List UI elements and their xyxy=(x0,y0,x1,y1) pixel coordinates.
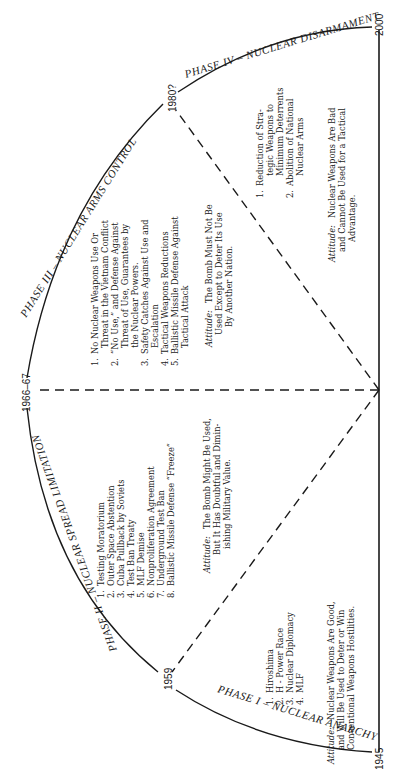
svg-text:4.: 4. xyxy=(295,697,305,705)
svg-text:Safety Catches Against Use and: Safety Catches Against Use and xyxy=(140,219,150,354)
svg-text:No Nuclear Weapons Use Or: No Nuclear Weapons Use Or xyxy=(90,233,100,354)
svg-text:3.: 3. xyxy=(140,358,150,366)
svg-text:MLF: MLF xyxy=(295,673,305,693)
svg-text:Nuclear Arms: Nuclear Arms xyxy=(295,118,305,176)
svg-text:Ballistic Missile Defense Agai: Ballistic Missile Defense Against xyxy=(170,216,180,354)
svg-text:tegic Weapons to: tegic Weapons to xyxy=(265,104,275,176)
svg-text:Reduction of Stra-: Reduction of Stra- xyxy=(255,109,265,186)
phase1-items: 1. Hiroshima 2. H - Power Race 3. Nuclea… xyxy=(265,612,305,705)
svg-text:5.: 5. xyxy=(170,358,180,366)
marker-1945: 1945 xyxy=(374,747,385,769)
svg-text:3.: 3. xyxy=(116,590,126,598)
phase4-items: 1. Reduction of Stra- tegic Weapons to M… xyxy=(255,88,305,198)
svg-text:Attitude:: Attitude: xyxy=(202,536,212,574)
svg-text:Nuclear Weapons Are Good,: Nuclear Weapons Are Good, xyxy=(326,601,336,720)
phase4-title: PHASE IV – NUCLEAR DISARMAMENT xyxy=(182,9,381,80)
svg-text:Advantage.: Advantage. xyxy=(347,195,357,243)
svg-text:Outer Space Abstention: Outer Space Abstention xyxy=(106,485,116,586)
svg-text:2.: 2. xyxy=(106,590,116,598)
marker-1959: 1959 xyxy=(163,667,174,690)
svg-text:The Bomb Must Not Be: The Bomb Must Not Be xyxy=(204,204,214,303)
svg-text:Underground Test Ban: Underground Test Ban xyxy=(156,489,166,586)
svg-text:1.: 1. xyxy=(90,358,100,366)
svg-text:Testing Moratorium: Testing Moratorium xyxy=(96,502,106,586)
svg-text:2.: 2. xyxy=(275,697,285,705)
svg-text:Threat in the Vietnam Conflict: Threat in the Vietnam Conflict xyxy=(100,219,110,348)
svg-text:3.: 3. xyxy=(285,697,295,705)
svg-text:the Nuclear Powers.: the Nuclear Powers. xyxy=(130,262,140,348)
phase3-attitude: Attitude: The Bomb Must Not Be Used Exce… xyxy=(204,204,234,348)
svg-text:2.: 2. xyxy=(285,190,295,198)
svg-text:Attitude:: Attitude: xyxy=(204,310,214,348)
svg-text:Test Ban Treaty: Test Ban Treaty xyxy=(126,519,136,586)
svg-text:Used Except to Deter Its Use: Used Except to Deter Its Use xyxy=(214,212,224,335)
svg-text:MLF Demise: MLF Demise xyxy=(136,532,146,586)
svg-text:Escalation: Escalation xyxy=(150,304,160,348)
svg-text:1.: 1. xyxy=(96,590,106,598)
svg-text:Tactical Weapons Reductions: Tactical Weapons Reductions xyxy=(160,231,170,354)
svg-text:The Bomb Might Be Used,: The Bomb Might Be Used, xyxy=(202,418,212,529)
svg-text:Hiroshima: Hiroshima xyxy=(265,649,275,693)
svg-text:5.: 5. xyxy=(136,590,146,598)
nuclear-phases-diagram: 2000 1980? 1966–67 1959 1945 PHASE IV – … xyxy=(0,0,394,769)
svg-text:Conventional Weapons Hostiliti: Conventional Weapons Hostilities. xyxy=(346,606,356,750)
svg-text:4.: 4. xyxy=(126,590,136,598)
svg-text:By Another Nation.: By Another Nation. xyxy=(224,246,234,327)
svg-text:6.: 6. xyxy=(146,590,156,598)
phase3-items: 1. No Nuclear Weapons Use Or Threat in t… xyxy=(90,216,190,366)
svg-text:“No Use,” and Defense Against: “No Use,” and Defense Against xyxy=(110,222,120,354)
svg-text:Cuba Pullback by Soviets: Cuba Pullback by Soviets xyxy=(116,479,126,586)
marker-1966-67: 1966–67 xyxy=(21,373,32,412)
svg-text:Ballistic Missile Defense “Fre: Ballistic Missile Defense “Freeze” xyxy=(166,443,176,586)
phase1-attitude: Attitude: Nuclear Weapons Are Good, and … xyxy=(326,601,356,765)
svg-text:Attitude:: Attitude: xyxy=(327,225,337,263)
svg-text:Attitude:: Attitude: xyxy=(326,727,336,765)
svg-text:Abolition of National: Abolition of National xyxy=(285,98,295,187)
phase4-attitude: Attitude: Nuclear Weapons Are Bad and Ca… xyxy=(327,107,357,263)
svg-text:Tactical Attack: Tactical Attack xyxy=(180,285,190,348)
svg-text:7.: 7. xyxy=(156,590,166,598)
svg-text:ishing Military Value.: ishing Military Value. xyxy=(222,459,232,549)
svg-text:4.: 4. xyxy=(160,358,170,366)
svg-text:1.: 1. xyxy=(265,697,275,705)
svg-text:8.: 8. xyxy=(166,590,176,598)
svg-text:2.: 2. xyxy=(110,358,120,366)
svg-text:H - Power Race: H - Power Race xyxy=(275,628,285,693)
svg-text:Nuclear Diplomacy: Nuclear Diplomacy xyxy=(285,612,295,693)
svg-text:Minimum Deterrents: Minimum Deterrents xyxy=(275,88,285,176)
svg-text:and Will Be Used to Deter or W: and Will Be Used to Deter or Win xyxy=(336,609,346,750)
phase2-attitude: Attitude: The Bomb Might Be Used, But It… xyxy=(202,418,232,574)
marker-1980: 1980? xyxy=(167,84,178,112)
svg-text:and Cannot Be Used for a Tacti: and Cannot Be Used for a Tactical xyxy=(337,108,347,252)
svg-text:Threat of Use, Guarantees by: Threat of Use, Guarantees by xyxy=(120,224,130,348)
svg-text:Nuclear Weapons Are Bad: Nuclear Weapons Are Bad xyxy=(327,107,337,218)
svg-text:1.: 1. xyxy=(255,190,265,198)
svg-text:Nonproliferation Agreement: Nonproliferation Agreement xyxy=(146,466,156,586)
phase2-items: 1. Testing Moratorium 2. Outer Space Abs… xyxy=(96,443,176,598)
svg-text:But It Has Doubtful and Dimin-: But It Has Doubtful and Dimin- xyxy=(212,424,222,555)
phase4-arc xyxy=(178,27,372,92)
